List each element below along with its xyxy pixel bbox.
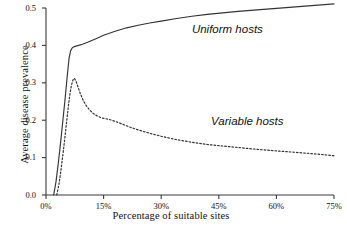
axis-lines <box>46 8 334 195</box>
series-annotation-uniform-hosts: Uniform hosts <box>192 23 263 35</box>
series-line-variable-hosts <box>57 78 334 195</box>
y-axis-tick-label: 0.5 <box>14 3 36 13</box>
series-annotation-variable-hosts: Variable hosts <box>211 115 283 127</box>
x-axis-ticks <box>46 195 334 199</box>
x-axis-title: Percentage of suitable sites <box>0 210 342 221</box>
y-axis-title: Average disease prevalence <box>19 15 30 195</box>
y-axis-ticks <box>42 8 46 195</box>
